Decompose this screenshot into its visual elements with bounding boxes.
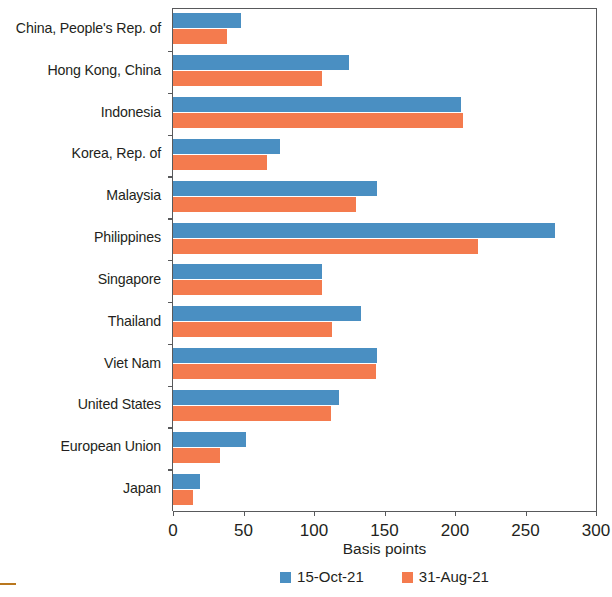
bar-group [173,13,596,44]
chart-legend: 15-Oct-2131-Aug-21 [173,568,596,586]
y-axis-tick-mark [168,135,173,136]
bar-series-1 [173,432,246,447]
y-axis-tick-mark [168,93,173,94]
bar-series-2 [173,197,356,212]
x-axis-tick-mark [385,511,386,516]
bar-series-1 [173,55,349,70]
x-axis-tick-mark [526,511,527,516]
bar-group [173,390,596,421]
y-axis-tick-mark [168,386,173,387]
x-axis-title: Basis points [173,540,596,558]
x-axis-tick-mark [314,511,315,516]
y-axis-label-malaysia: Malaysia [0,187,161,203]
bar-group [173,97,596,128]
y-axis-label-japan: Japan [0,480,161,496]
y-axis-label-thailand: Thailand [0,313,161,329]
bar-series-2 [173,29,227,44]
x-axis-tick-label-200: 200 [425,521,485,541]
bar-series-1 [173,348,377,363]
legend-swatch-icon [280,572,291,583]
bar-series-2 [173,364,376,379]
footer-rule [0,583,16,585]
bar-group [173,306,596,337]
legend-swatch-icon [402,572,413,583]
y-axis-label-indonesia: Indonesia [0,104,161,120]
bar-series-1 [173,181,377,196]
y-axis-category-labels: China, People's Rep. ofHong Kong, ChinaI… [0,8,167,510]
y-axis-label-china-people-s-rep-of: China, People's Rep. of [0,20,161,36]
y-axis-label-viet-nam: Viet Nam [0,355,161,371]
x-axis-tick-mark [596,511,597,516]
y-axis-label-korea-rep-of: Korea, Rep. of [0,145,161,161]
x-axis-tick-label-300: 300 [566,521,612,541]
legend-label: 31-Aug-21 [419,568,489,586]
x-axis-tick-mark [173,511,174,516]
y-axis-tick-mark [168,51,173,52]
y-axis-tick-mark [168,302,173,303]
bar-series-2 [173,490,193,505]
y-axis-tick-mark [168,260,173,261]
bar-series-2 [173,113,463,128]
bar-series-2 [173,448,220,463]
x-axis-tick-label-100: 100 [284,521,344,541]
legend-item-2[interactable]: 31-Aug-21 [402,568,489,586]
x-axis-tick-mark [455,511,456,516]
x-axis-tick-mark [244,511,245,516]
bar-group [173,55,596,86]
y-axis-label-philippines: Philippines [0,229,161,245]
bar-series-2 [173,155,267,170]
bar-series-1 [173,223,555,238]
y-axis-tick-mark [168,218,173,219]
y-axis-tick-mark [168,469,173,470]
chart-figure: China, People's Rep. ofHong Kong, ChinaI… [0,0,612,597]
plot-area: 050100150200250300 [173,8,597,512]
bar-group [173,264,596,295]
x-axis-tick-label-150: 150 [355,521,415,541]
x-axis-tick-label-250: 250 [496,521,556,541]
legend-item-1[interactable]: 15-Oct-21 [280,568,364,586]
bar-series-2 [173,406,331,421]
bar-group [173,181,596,212]
bar-group [173,474,596,505]
y-axis-label-united-states: United States [0,396,161,412]
bar-series-1 [173,264,322,279]
y-axis-label-european-union: European Union [0,438,161,454]
y-axis-tick-mark [168,176,173,177]
x-axis-tick-label-0: 0 [143,521,203,541]
bar-series-1 [173,474,200,489]
bar-group [173,223,596,254]
bar-series-1 [173,390,339,405]
bar-group [173,139,596,170]
bar-series-2 [173,71,322,86]
y-axis-label-singapore: Singapore [0,271,161,287]
bar-series-1 [173,139,280,154]
bar-series-1 [173,306,361,321]
bar-group [173,348,596,379]
bar-series-2 [173,280,322,295]
y-axis-label-hong-kong-china: Hong Kong, China [0,62,161,78]
y-axis-tick-mark [168,427,173,428]
legend-label: 15-Oct-21 [297,568,364,586]
bar-series-2 [173,239,478,254]
bar-series-1 [173,97,461,112]
bar-series-2 [173,322,332,337]
bar-group [173,432,596,463]
x-axis-tick-label-50: 50 [214,521,274,541]
y-axis-tick-mark [168,344,173,345]
bar-series-1 [173,13,241,28]
